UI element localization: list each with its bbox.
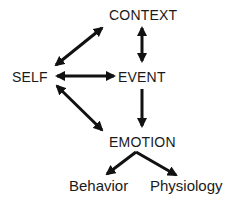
- node-self: SELF: [12, 70, 48, 84]
- node-behavior: Behavior: [69, 178, 128, 193]
- arrow-emotion-physiology: [136, 152, 176, 175]
- arrow-emotion-behavior: [107, 152, 136, 174]
- node-event: EVENT: [118, 70, 166, 84]
- diagram-canvas: CONTEXT SELF EVENT EMOTION Behavior Phys…: [0, 0, 230, 209]
- node-physiology: Physiology: [150, 178, 223, 193]
- node-context: CONTEXT: [109, 8, 177, 22]
- arrow-self-emotion: [57, 86, 102, 130]
- node-emotion: EMOTION: [109, 135, 176, 149]
- arrow-self-context: [56, 28, 102, 65]
